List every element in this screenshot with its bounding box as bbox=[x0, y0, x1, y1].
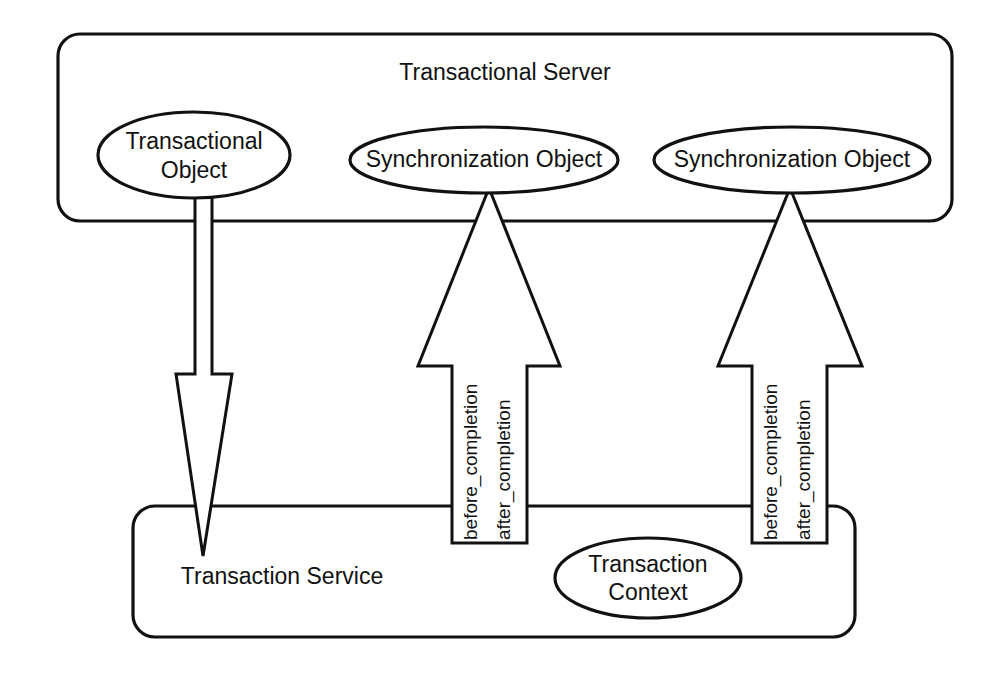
arrow-label-after-completion-right: after_completion bbox=[793, 400, 815, 540]
transactional-object-label-line2: Object bbox=[161, 157, 228, 183]
transaction-context-ellipse[interactable] bbox=[555, 538, 741, 618]
node-synchronization-object-right[interactable]: Synchronization Object bbox=[654, 127, 930, 193]
arrow-label-before-completion-right: before_completion bbox=[760, 384, 782, 540]
transactional-server-label: Transactional Server bbox=[399, 59, 611, 85]
arrow-label-before-completion-left: before_completion bbox=[460, 384, 482, 540]
synchronization-object-left-label: Synchronization Object bbox=[366, 146, 603, 172]
arrow-synchronization-left-to-server[interactable]: before_completion after_completion bbox=[418, 188, 560, 543]
arrow-transactional-object-to-transaction-service[interactable] bbox=[176, 196, 232, 556]
arrow-synchronization-right-to-server[interactable]: before_completion after_completion bbox=[718, 188, 862, 543]
up-arrow-shape-left[interactable] bbox=[418, 188, 560, 543]
transactional-object-ellipse[interactable] bbox=[98, 112, 290, 198]
diagram-canvas: Transactional Server Transaction Service… bbox=[0, 0, 991, 679]
transaction-service-label: Transaction Service bbox=[181, 563, 383, 589]
node-transaction-context[interactable]: Transaction Context bbox=[555, 538, 741, 618]
transaction-context-label-line1: Transaction bbox=[588, 551, 707, 577]
down-arrow-shape[interactable] bbox=[176, 196, 232, 556]
transactional-object-label-line1: Transactional bbox=[125, 128, 262, 154]
node-transactional-object[interactable]: Transactional Object bbox=[98, 112, 290, 198]
up-arrow-shape-right[interactable] bbox=[718, 188, 862, 543]
transaction-context-label-line2: Context bbox=[608, 579, 688, 605]
arrow-label-after-completion-left: after_completion bbox=[493, 400, 515, 540]
diagram-svg: Transactional Server Transaction Service… bbox=[0, 0, 991, 679]
node-synchronization-object-left[interactable]: Synchronization Object bbox=[350, 127, 618, 193]
synchronization-object-right-label: Synchronization Object bbox=[674, 146, 911, 172]
